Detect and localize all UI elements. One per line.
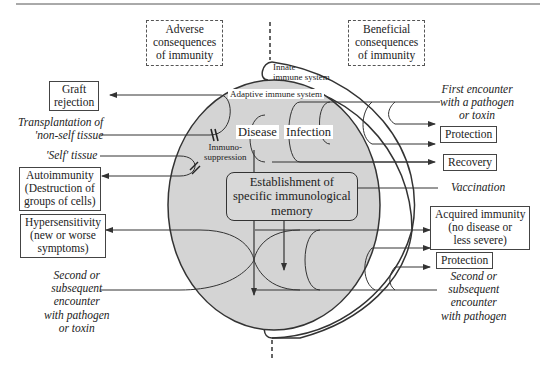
transplant-line-1: Transplantation of bbox=[18, 116, 103, 129]
adverse-line-3: of immunity bbox=[153, 49, 216, 62]
beneficial-line-1: Beneficial bbox=[355, 23, 418, 36]
beneficial-line-3: of immunity bbox=[355, 49, 418, 62]
transplant-line-2: 'non-self tissue bbox=[18, 129, 103, 142]
autoimmunity-line-1: Autoimmunity bbox=[24, 169, 96, 182]
autoimmunity-line-3: groups of cells) bbox=[24, 195, 96, 208]
first-encounter-line-1: First encounter bbox=[440, 83, 514, 96]
immunological-memory-box: Establishment of specific immunological … bbox=[226, 172, 358, 221]
hypersensitivity-line-2: (new or worse bbox=[25, 229, 101, 242]
memory-line-3: memory bbox=[233, 204, 351, 218]
innate-line-1: Innate bbox=[273, 62, 330, 72]
graft-rejection-box: Graft rejection bbox=[49, 81, 99, 111]
second-encounter-left-label: Second or subsequent encounter with path… bbox=[44, 269, 110, 335]
beneficial-consequences-box: Beneficial consequences of immunity bbox=[348, 20, 425, 66]
adverse-consequences-box: Adverse consequences of immunity bbox=[146, 20, 223, 66]
second-left-line-1: Second or bbox=[44, 269, 110, 282]
first-encounter-label: First encounter with a pathogen or toxin bbox=[440, 83, 514, 123]
acquired-line-1: Acquired immunity bbox=[435, 208, 525, 221]
beneficial-line-2: consequences bbox=[355, 36, 418, 49]
disease-label: Disease bbox=[236, 125, 279, 139]
second-right-line-2: subsequent bbox=[441, 283, 507, 296]
second-left-line-4: with pathogen bbox=[44, 309, 110, 322]
infection-label: Infection bbox=[284, 125, 333, 139]
adaptive-immune-system-label: Adaptive immune system bbox=[228, 89, 324, 99]
acquired-line-2: (no disease or bbox=[435, 221, 525, 234]
memory-line-2: specific immunological bbox=[233, 189, 351, 203]
graft-line-1: Graft bbox=[54, 83, 94, 96]
adverse-line-1: Adverse bbox=[153, 23, 216, 36]
autoimmunity-box: Autoimmunity (Destruction of groups of c… bbox=[19, 167, 101, 211]
transplantation-label: Transplantation of 'non-self tissue bbox=[18, 116, 103, 142]
hypersensitivity-box: Hypersensitivity (new or worse symptoms) bbox=[20, 214, 106, 258]
immunosuppression-label: Immuno- suppression bbox=[204, 142, 247, 163]
first-encounter-line-3: or toxin bbox=[440, 109, 514, 122]
self-tissue-label: 'Self' tissue bbox=[46, 149, 97, 162]
memory-line-1: Establishment of bbox=[233, 175, 351, 189]
innate-immune-system-label: Innate immune system bbox=[273, 62, 330, 83]
second-left-line-2: subsequent bbox=[44, 282, 110, 295]
autoimmunity-line-2: (Destruction of bbox=[24, 182, 96, 195]
vaccination-label: Vaccination bbox=[451, 181, 505, 194]
immunosuppression-line-2: suppression bbox=[204, 152, 247, 162]
second-left-line-5: or toxin bbox=[44, 322, 110, 335]
first-encounter-line-2: with a pathogen bbox=[440, 96, 514, 109]
immunosuppression-line-1: Immuno- bbox=[204, 142, 247, 152]
hypersensitivity-line-1: Hypersensitivity bbox=[25, 216, 101, 229]
graft-line-2: rejection bbox=[54, 96, 94, 109]
acquired-line-3: less severe) bbox=[435, 234, 525, 247]
second-right-line-1: Second or bbox=[441, 270, 507, 283]
second-right-line-3: encounter bbox=[441, 296, 507, 309]
second-left-line-3: encounter bbox=[44, 295, 110, 308]
acquired-immunity-box: Acquired immunity (no disease or less se… bbox=[430, 206, 530, 250]
innate-line-2: immune system bbox=[273, 72, 330, 82]
protection-box-1: Protection bbox=[440, 126, 497, 143]
recovery-box: Recovery bbox=[443, 154, 497, 171]
protection-box-2: Protection bbox=[436, 252, 493, 269]
second-right-line-4: with pathogen bbox=[441, 310, 507, 323]
hypersensitivity-line-3: symptoms) bbox=[25, 242, 101, 255]
adverse-line-2: consequences bbox=[153, 36, 216, 49]
second-encounter-right-label: Second or subsequent encounter with path… bbox=[441, 270, 507, 323]
